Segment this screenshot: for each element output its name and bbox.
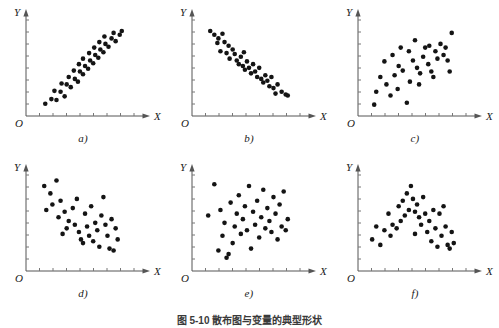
data-point [275,82,280,87]
y-axis-label: Y [346,6,354,18]
data-point [66,219,71,224]
data-point [439,233,444,238]
data-point [227,56,232,61]
data-point [413,232,418,237]
origin-label: O [181,117,189,129]
data-point [257,235,262,240]
origin-label: O [347,272,355,284]
data-point [251,62,256,67]
data-point [378,243,383,248]
origin-label: O [181,272,189,284]
data-point [81,72,86,77]
data-point [400,68,405,73]
x-axis-label: X [485,265,494,277]
data-point [241,217,246,222]
data-point [230,47,235,52]
data-point [415,66,420,71]
data-point [228,200,233,205]
data-point [411,197,416,202]
y-axis-label: Y [14,6,22,18]
data-point [62,94,67,99]
data-point [97,244,102,249]
data-point [66,75,71,80]
data-point [400,198,405,203]
data-point [267,84,272,89]
panel-a-caption: a) [0,132,166,144]
data-point [279,89,284,94]
data-point [438,42,443,47]
data-point [273,211,278,216]
data-point [101,50,106,55]
data-point [91,239,96,244]
data-point [50,202,55,207]
panel-e-plot: YXO [166,155,332,293]
data-point [208,29,213,34]
data-point [43,101,48,106]
data-point [75,197,80,202]
data-point [89,204,94,209]
data-point [81,241,86,246]
data-point [403,213,408,218]
panel-c: YXO c) [332,0,498,155]
data-point [245,228,250,233]
data-point [269,230,274,235]
data-point [222,40,227,45]
data-point [386,211,391,216]
data-point [49,97,54,102]
data-point [56,215,61,220]
x-axis-label: X [485,110,494,122]
data-point [378,75,383,80]
data-point [73,222,78,227]
panel-b-plot: YXO [166,0,332,138]
data-point [97,40,102,45]
data-point [441,204,446,209]
data-point [407,49,412,54]
data-point [77,230,82,235]
data-point [105,233,110,238]
data-point [396,204,401,209]
data-point [99,213,104,218]
data-point [249,71,254,76]
y-axis-label: Y [346,161,354,173]
data-point [413,38,418,43]
data-point [76,79,81,84]
data-point [423,45,428,50]
data-point [415,202,420,207]
data-point [413,210,418,215]
data-point [226,252,231,257]
data-point [263,73,268,78]
data-point [384,82,389,87]
data-point [251,210,256,215]
data-point [405,101,410,106]
data-point [224,51,229,56]
data-point [388,93,393,98]
data-point [91,61,96,66]
data-point [58,198,63,203]
data-point [433,49,438,54]
data-point [259,215,264,220]
data-point [113,39,118,44]
data-point [106,44,111,49]
panel-e-caption: e) [166,287,332,299]
data-point [418,71,423,76]
data-point [283,228,288,233]
data-point [92,45,97,50]
data-point [449,31,454,36]
data-point [409,184,414,189]
panel-c-plot: YXO [332,0,498,138]
data-point [212,32,217,37]
data-point [77,62,82,67]
data-point [245,59,250,64]
data-point [113,226,118,231]
data-point [447,69,452,74]
data-point [441,53,446,58]
figure-caption: 图 5-10 散布图与变量的典型形状 [0,312,499,327]
data-point [425,230,430,235]
data-point [273,91,278,96]
data-point [398,219,403,224]
data-point [243,67,248,72]
data-point [443,45,448,50]
data-point [407,208,412,213]
data-point [111,248,116,253]
panel-a-plot: YXO [0,0,166,138]
